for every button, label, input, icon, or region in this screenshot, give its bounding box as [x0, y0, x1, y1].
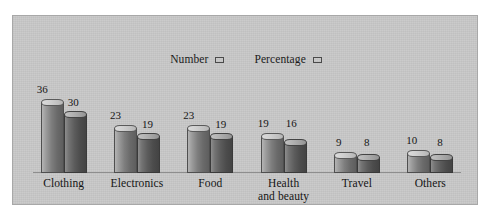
bar-wrap-travel-number: 9 — [334, 38, 357, 173]
category-label-health-and-beauty: Health and beauty — [249, 177, 319, 203]
bar-wrap-health-percentage: 16 — [284, 38, 307, 173]
bar-wrap-others-percentage: 8 — [430, 38, 453, 173]
chart-plot-panel: Number Percentage 36 — [12, 15, 478, 205]
bar-travel-number[interactable] — [334, 155, 357, 173]
bar-value-food-percentage: 19 — [215, 119, 226, 130]
bar-cap-icon — [357, 154, 380, 161]
category-label-travel: Travel — [322, 177, 392, 203]
bar-value-travel-percentage: 8 — [364, 137, 370, 148]
bar-clothing-percentage[interactable] — [64, 114, 87, 173]
bar-wrap-clothing-percentage: 30 — [64, 38, 87, 173]
bar-wrap-food-percentage: 19 — [210, 38, 233, 173]
bar-cap-icon — [64, 111, 87, 118]
bar-wrap-electronics-number: 23 — [114, 38, 137, 173]
bar-value-others-percentage: 8 — [437, 137, 443, 148]
chart-figure: Number Percentage 36 — [0, 0, 490, 219]
bar-group-health-and-beauty: 19 16 — [249, 38, 319, 173]
bar-group-clothing: 36 30 — [29, 38, 99, 173]
bar-value-health-number: 19 — [258, 118, 269, 129]
bar-cap-icon — [210, 133, 233, 140]
bar-wrap-others-number: 10 — [407, 38, 430, 173]
bar-clothing-number[interactable] — [41, 102, 64, 173]
bar-health-percentage[interactable] — [284, 142, 307, 173]
bar-value-others-number: 10 — [406, 135, 417, 146]
bar-cap-icon — [407, 150, 430, 157]
bar-value-clothing-percentage: 30 — [68, 97, 79, 108]
bar-cap-icon — [284, 139, 307, 146]
bar-cap-icon — [334, 152, 357, 159]
bar-value-electronics-number: 23 — [110, 110, 121, 121]
bar-health-number[interactable] — [261, 136, 284, 173]
bar-electronics-number[interactable] — [114, 128, 137, 173]
bar-food-number[interactable] — [187, 128, 210, 173]
bar-wrap-food-number: 23 — [187, 38, 210, 173]
category-label-clothing: Clothing — [29, 177, 99, 203]
bar-group-travel: 9 8 — [322, 38, 392, 173]
bar-cap-icon — [114, 125, 137, 132]
bar-others-percentage[interactable] — [430, 157, 453, 173]
bar-cap-icon — [137, 133, 160, 140]
bar-wrap-health-number: 19 — [261, 38, 284, 173]
bar-value-electronics-percentage: 19 — [142, 119, 153, 130]
bar-cap-icon — [187, 125, 210, 132]
bar-group-food: 23 19 — [175, 38, 245, 173]
bar-wrap-clothing-number: 36 — [41, 38, 64, 173]
bar-wrap-travel-percentage: 8 — [357, 38, 380, 173]
bar-value-clothing-number: 36 — [37, 84, 48, 95]
category-label-others: Others — [395, 177, 465, 203]
category-label-electronics: Electronics — [102, 177, 172, 203]
bar-electronics-percentage[interactable] — [137, 136, 160, 173]
bar-wrap-electronics-percentage: 19 — [137, 38, 160, 173]
bar-food-percentage[interactable] — [210, 136, 233, 173]
bar-value-health-percentage: 16 — [286, 118, 297, 129]
chart-bar-groups: 36 30 23 — [27, 38, 467, 173]
bar-value-food-number: 23 — [183, 110, 194, 121]
bar-group-others: 10 8 — [395, 38, 465, 173]
bar-others-number[interactable] — [407, 153, 430, 173]
bar-travel-percentage[interactable] — [357, 157, 380, 173]
chart-plot-area: 36 30 23 — [27, 38, 467, 173]
category-label-food: Food — [175, 177, 245, 203]
bar-cap-icon — [261, 133, 284, 140]
bar-value-travel-number: 9 — [336, 137, 342, 148]
bar-cap-icon — [41, 99, 64, 106]
bar-group-electronics: 23 19 — [102, 38, 172, 173]
bar-cap-icon — [430, 154, 453, 161]
chart-category-labels: Clothing Electronics Food Health and bea… — [27, 177, 467, 203]
